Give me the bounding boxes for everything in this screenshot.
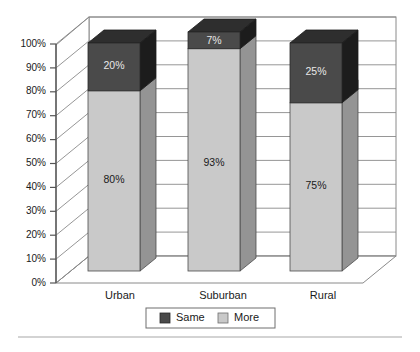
legend-label-same: Same	[176, 311, 205, 323]
y-tick-30: 30%	[26, 205, 46, 216]
bar-label-rural-same: 25%	[305, 65, 326, 77]
bar-label-suburban-more: 93%	[203, 156, 224, 168]
bar-segment-rural-more[interactable]: 75%	[290, 80, 358, 271]
legend-entry-same[interactable]: Same	[160, 311, 205, 323]
y-axis-tick-labels: 0% 10% 20% 30% 40% 50% 60% 70% 80% 90% 1…	[20, 38, 46, 288]
y-tick-10: 10%	[26, 253, 46, 264]
y-axis	[50, 44, 56, 283]
bar-side-face	[342, 30, 358, 103]
x-axis-category-labels: Urban Suburban Rural	[105, 289, 336, 301]
y-tick-70: 70%	[26, 109, 46, 120]
chart-container: 0% 10% 20% 30% 40% 50% 60% 70% 80% 90% 1…	[0, 0, 420, 352]
bar-label-urban-more: 80%	[103, 173, 124, 185]
legend-swatch-more	[218, 313, 228, 323]
bar-side-face	[240, 36, 256, 271]
category-label-suburban: Suburban	[199, 289, 247, 301]
y-tick-0: 0%	[32, 277, 47, 288]
bar-group-suburban[interactable]: 93% 7%	[188, 19, 256, 271]
bar-label-rural-more: 75%	[305, 179, 326, 191]
y-tick-40: 40%	[26, 181, 46, 192]
y-tick-80: 80%	[26, 85, 46, 96]
legend-label-more: More	[234, 311, 259, 323]
bar-segment-suburban-more[interactable]: 93%	[188, 36, 256, 271]
y-tick-100: 100%	[20, 38, 46, 49]
legend-entry-more[interactable]: More	[218, 311, 259, 323]
bar-group-urban[interactable]: 80% 20%	[88, 30, 156, 271]
bar-segment-suburban-same[interactable]: 7%	[188, 19, 256, 49]
chart-legend[interactable]: Same More	[146, 308, 275, 328]
bar-side-face	[342, 80, 358, 271]
y-tick-50: 50%	[26, 157, 46, 168]
bar-segment-rural-same[interactable]: 25%	[290, 30, 358, 103]
bar-group-rural[interactable]: 75% 25%	[290, 30, 358, 271]
y-tick-90: 90%	[26, 62, 46, 73]
bar-label-urban-same: 20%	[103, 59, 124, 71]
bar-label-suburban-same: 7%	[206, 34, 221, 46]
y-tick-60: 60%	[26, 133, 46, 144]
bar-side-face	[140, 78, 156, 271]
y-tick-20: 20%	[26, 229, 46, 240]
category-label-rural: Rural	[310, 289, 336, 301]
category-label-urban: Urban	[105, 289, 135, 301]
stacked-column-chart: 0% 10% 20% 30% 40% 50% 60% 70% 80% 90% 1…	[0, 0, 420, 352]
legend-swatch-same	[160, 313, 170, 323]
bar-segment-urban-more[interactable]: 80%	[88, 78, 156, 271]
bar-segment-urban-same[interactable]: 20%	[88, 30, 156, 91]
